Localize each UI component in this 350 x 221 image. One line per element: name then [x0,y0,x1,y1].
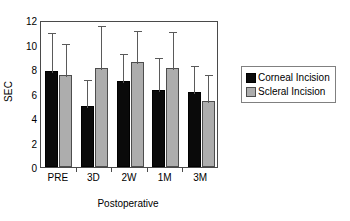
legend-swatch-scleral [246,87,256,97]
bar-scleral-3d [95,68,108,167]
x-tick-mark [182,168,183,172]
error-bar-stem [173,32,174,70]
bar-corneal-pre [45,71,58,167]
error-bar-cap [48,33,56,34]
legend-swatch-corneal [246,73,256,83]
error-bar-stem [101,26,102,70]
error-bar-stem [194,66,195,94]
chart-legend: Corneal IncisionScleral Incision [241,66,336,103]
error-bar-stem [208,75,209,103]
bar-scleral-2w [131,62,144,167]
y-tick-label: 12 [0,16,37,27]
bar-corneal-2w [117,81,130,167]
error-bar-cap [120,54,128,55]
bar-corneal-3m [188,92,201,167]
x-tick-mark [147,168,148,172]
bar-scleral-pre [59,75,72,167]
error-bar-cap [169,32,177,33]
x-tick-label: PRE [48,172,69,183]
error-bar-stem [87,80,88,108]
y-tick-label: 6 [0,89,37,100]
y-tick-label: 4 [0,114,37,125]
y-tick-label: 8 [0,65,37,76]
legend-item: Scleral Incision [246,85,330,98]
plot-frame [40,21,218,168]
bar-scleral-1m [166,68,179,167]
bar-scleral-3m [202,101,215,167]
error-bar-cap [62,44,70,45]
y-tick-label: 2 [0,138,37,149]
error-bar-stem [137,31,138,64]
legend-item: Corneal Incision [246,71,330,84]
plot-area [41,22,217,167]
error-bar-cap [191,66,199,67]
bar-corneal-1m [152,90,165,167]
x-tick-label: 3D [87,172,100,183]
x-tick-mark [111,168,112,172]
error-bar-cap [155,58,163,59]
error-bar-cap [134,31,142,32]
error-bar-stem [66,44,67,76]
bar-corneal-3d [81,106,94,167]
bar-chart-figure: SEC 024681012 PRE3D2W1M3M Postoperative … [0,0,350,221]
error-bar-cap [205,75,213,76]
error-bar-cap [84,80,92,81]
x-axis-label: Postoperative [38,198,218,209]
legend-label: Scleral Incision [258,85,325,98]
x-tick-label: 1M [158,172,172,183]
x-tick-label: 3M [193,172,207,183]
y-tick-label: 10 [0,40,37,51]
error-bar-stem [123,54,124,83]
error-bar-cap [98,26,106,27]
y-tick-label: 0 [0,163,37,174]
error-bar-stem [159,58,160,92]
legend-label: Corneal Incision [258,71,330,84]
error-bar-stem [52,33,53,73]
x-tick-label: 2W [122,172,137,183]
x-tick-mark [76,168,77,172]
